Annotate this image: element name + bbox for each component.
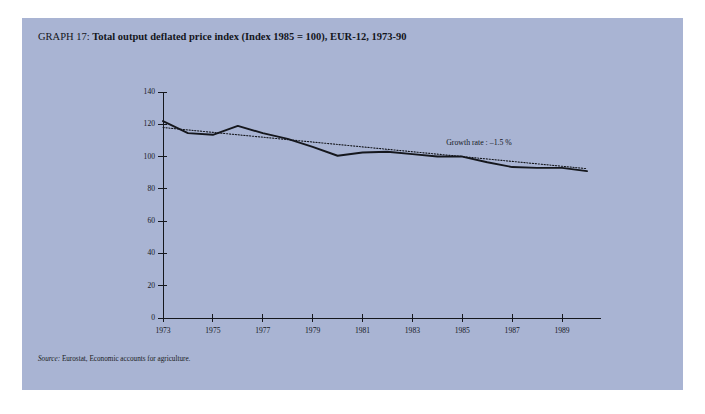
- x-axis-tick-label: 1979: [293, 326, 333, 335]
- source-text: Eurostat, Economic accounts for agricult…: [60, 355, 190, 363]
- source-label: Source:: [38, 355, 60, 363]
- graph-panel: GRAPH 17: Total output deflated price in…: [22, 18, 683, 390]
- x-axis-tick-label: 1973: [143, 326, 183, 335]
- y-axis-tick-label: 120: [123, 119, 155, 128]
- x-axis-tick-label: 1977: [243, 326, 283, 335]
- y-axis-tick-label: 60: [123, 216, 155, 225]
- y-axis-tick-label: 140: [123, 87, 155, 96]
- y-axis-tick-label: 20: [123, 281, 155, 290]
- y-axis-tick-label: 80: [123, 184, 155, 193]
- x-axis-tick-label: 1989: [542, 326, 582, 335]
- trend-line-series: [163, 128, 587, 169]
- y-axis-tick-label: 100: [123, 152, 155, 161]
- y-axis-tick-label: 0: [123, 313, 155, 322]
- y-axis-tick-label: 40: [123, 248, 155, 257]
- price-index-series: [163, 121, 587, 171]
- x-axis-tick-label: 1985: [442, 326, 482, 335]
- x-axis-tick-label: 1981: [343, 326, 383, 335]
- x-axis-tick-label: 1975: [193, 326, 233, 335]
- x-axis-tick-label: 1983: [392, 326, 432, 335]
- growth-rate-annotation: Growth rate : –1.5 %: [446, 138, 512, 147]
- source-note: Source: Eurostat, Economic accounts for …: [38, 355, 190, 363]
- chart-area: 0204060801001201401973197519771979198119…: [22, 18, 683, 390]
- x-axis-tick-label: 1987: [492, 326, 532, 335]
